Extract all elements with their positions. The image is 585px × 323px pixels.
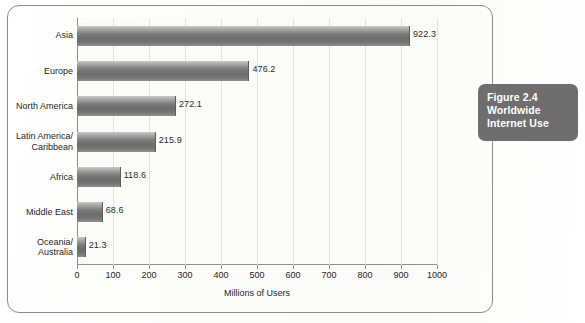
category-label: Europe [7, 66, 73, 77]
bar-value-label: 118.6 [124, 170, 146, 180]
x-tick-mark [401, 265, 402, 269]
category-label: Middle East [7, 207, 73, 218]
x-tick-label: 400 [213, 270, 228, 280]
caption-line-1: Figure 2.4 [487, 91, 578, 104]
category-label: Latin America/ Caribbean [7, 131, 73, 152]
x-tick-mark [113, 265, 114, 269]
bar-value-label: 21.3 [89, 240, 107, 250]
x-tick-mark [257, 265, 258, 269]
x-tick-mark [329, 265, 330, 269]
gridline [437, 18, 438, 265]
x-axis: 01002003004005006007008009001000 [77, 265, 437, 287]
x-tick-label: 0 [74, 270, 79, 280]
bar-value-label: 922.3 [413, 29, 436, 39]
category-label: Africa [7, 172, 73, 183]
x-tick-label: 800 [357, 270, 372, 280]
bar-row: 68.6 [77, 202, 437, 222]
x-tick-label: 200 [141, 270, 156, 280]
x-tick-label: 100 [105, 270, 120, 280]
bar-row: 476.2 [77, 61, 437, 81]
bar [77, 237, 86, 257]
caption-line-2: Worldwide [487, 104, 578, 117]
x-tick-mark [221, 265, 222, 269]
bar [77, 61, 249, 81]
category-label: Oceania/ Australia [7, 237, 73, 258]
bar-value-label: 476.2 [252, 64, 275, 74]
bar-row: 215.9 [77, 132, 437, 152]
bar-row: 922.3 [77, 26, 437, 46]
x-tick-label: 1000 [427, 270, 447, 280]
figure-caption-box: Figure 2.4 Worldwide Internet Use [478, 84, 578, 141]
category-axis-labels: AsiaEuropeNorth AmericaLatin America/ Ca… [7, 18, 73, 265]
bar-value-label: 272.1 [179, 99, 202, 109]
bar-value-label: 215.9 [159, 135, 182, 145]
bar [77, 26, 410, 46]
bar [77, 132, 156, 152]
bar-row: 118.6 [77, 167, 437, 187]
x-tick-mark [185, 265, 186, 269]
x-tick-mark [149, 265, 150, 269]
bar-value-label: 68.6 [106, 205, 124, 215]
plot-area: 922.3476.2272.1215.9118.668.621.3 [77, 18, 437, 265]
x-tick-label: 300 [177, 270, 192, 280]
category-label: Asia [7, 30, 73, 41]
x-tick-mark [365, 265, 366, 269]
x-tick-mark [293, 265, 294, 269]
bar [77, 202, 103, 222]
bar-row: 21.3 [77, 237, 437, 257]
x-tick-label: 600 [285, 270, 300, 280]
figure-root: AsiaEuropeNorth AmericaLatin America/ Ca… [0, 0, 585, 323]
x-axis-title: Millions of Users [77, 288, 437, 298]
x-tick-label: 500 [249, 270, 264, 280]
bar [77, 96, 176, 116]
caption-line-3: Internet Use [487, 117, 578, 130]
x-tick-mark [437, 265, 438, 269]
bar-chart: AsiaEuropeNorth AmericaLatin America/ Ca… [7, 5, 493, 313]
bar [77, 167, 121, 187]
x-tick-label: 700 [321, 270, 336, 280]
x-tick-mark [77, 265, 78, 269]
x-tick-label: 900 [393, 270, 408, 280]
bar-row: 272.1 [77, 96, 437, 116]
category-label: North America [7, 101, 73, 112]
